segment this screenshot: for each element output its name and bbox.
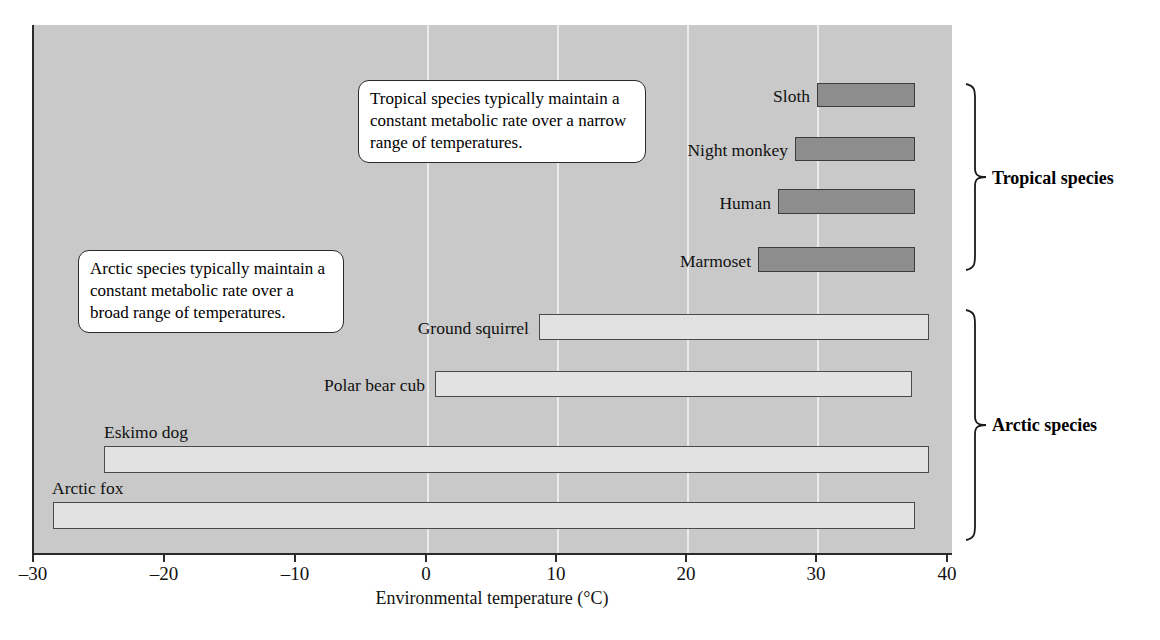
bar-label-ground-squirrel: Ground squirrel bbox=[337, 318, 529, 339]
bracket-arctic bbox=[962, 308, 988, 542]
x-tick-0 bbox=[425, 553, 427, 562]
bar-marmoset[interactable] bbox=[758, 247, 915, 272]
bar-polar-bear-cub[interactable] bbox=[435, 371, 912, 397]
bar-label-polar-bear-cub: Polar bear cub bbox=[245, 375, 425, 396]
group-label-tropical: Tropical species bbox=[992, 168, 1114, 189]
x-ticklabel-30: 30 bbox=[807, 563, 826, 585]
x-tick-10 bbox=[555, 553, 557, 562]
x-ticklabel--20: –20 bbox=[150, 563, 179, 585]
x-tick--30 bbox=[32, 553, 34, 562]
x-tick-20 bbox=[685, 553, 687, 562]
x-ticklabel--30: –30 bbox=[19, 563, 48, 585]
x-ticklabel-20: 20 bbox=[677, 563, 696, 585]
x-ticklabel-10: 10 bbox=[547, 563, 566, 585]
group-label-arctic: Arctic species bbox=[992, 415, 1097, 436]
bar-label-sloth: Sloth bbox=[655, 86, 810, 107]
x-ticklabel-0: 0 bbox=[421, 563, 431, 585]
x-tick-30 bbox=[815, 553, 817, 562]
x-axis: –30 –20 –10 0 10 20 30 40 bbox=[0, 553, 1160, 593]
bracket-tropical bbox=[962, 82, 988, 272]
bar-label-eskimo-dog: Eskimo dog bbox=[104, 422, 188, 443]
x-ticklabel-40: 40 bbox=[938, 563, 957, 585]
x-tick--20 bbox=[163, 553, 165, 562]
bar-sloth[interactable] bbox=[817, 83, 915, 107]
x-tick-40 bbox=[946, 553, 948, 562]
bar-night-monkey[interactable] bbox=[795, 137, 915, 161]
x-axis-title: Environmental temperature (°C) bbox=[32, 588, 952, 609]
x-tick--10 bbox=[294, 553, 296, 562]
callout-arctic: Arctic species typically maintain a cons… bbox=[78, 250, 344, 333]
bar-label-arctic-fox: Arctic fox bbox=[52, 478, 123, 499]
chart-figure: Sloth Night monkey Human Marmoset Ground… bbox=[0, 0, 1160, 640]
callout-tropical: Tropical species typically maintain a co… bbox=[358, 80, 646, 163]
bar-label-human: Human bbox=[616, 193, 771, 214]
bar-human[interactable] bbox=[778, 189, 915, 214]
bar-eskimo-dog[interactable] bbox=[104, 446, 929, 473]
bar-label-marmoset: Marmoset bbox=[596, 251, 751, 272]
bar-arctic-fox[interactable] bbox=[53, 502, 915, 529]
bar-ground-squirrel[interactable] bbox=[539, 314, 929, 340]
x-ticklabel--10: –10 bbox=[281, 563, 310, 585]
